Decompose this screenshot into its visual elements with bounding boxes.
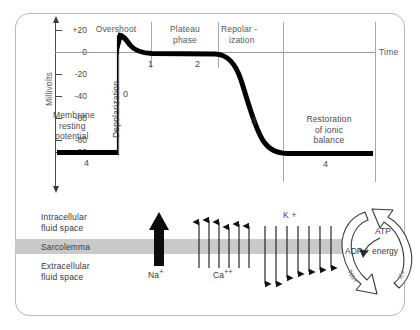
pump-adp-label: ADP + energy bbox=[345, 246, 398, 256]
phase-number-0: 0 bbox=[123, 89, 128, 99]
resting-potential-line2: resting bbox=[59, 121, 86, 132]
potassium-ion-label: K + bbox=[283, 210, 297, 220]
calcium-ion-sup: ++ bbox=[224, 268, 233, 275]
phase-number-4-left: 4 bbox=[84, 158, 89, 168]
phase-number-2: 2 bbox=[195, 59, 200, 69]
figure-root: Millivolts +20 0 -20 -40 -60 -80 -90 Tim… bbox=[0, 0, 420, 330]
calcium-ion-text: Ca bbox=[213, 270, 224, 280]
phase-number-1: 1 bbox=[148, 59, 153, 69]
resting-potential-line1: Membrane bbox=[53, 110, 95, 120]
restoration-line1: Restoration bbox=[306, 114, 351, 124]
restoration-note: Restoration of ionic balance bbox=[289, 114, 369, 146]
action-potential-chart: Millivolts +20 0 -20 -40 -60 -80 -90 Tim… bbox=[55, 22, 395, 187]
restoration-line3: balance bbox=[314, 135, 345, 145]
sodium-ion-sup: + bbox=[159, 268, 163, 275]
potassium-efflux-arrows bbox=[265, 226, 331, 284]
y-axis-down-arrow-icon bbox=[53, 186, 59, 193]
action-potential-curve bbox=[55, 22, 395, 187]
phase-number-3: 3 bbox=[251, 116, 256, 126]
sodium-influx-arrow bbox=[149, 212, 169, 266]
depolarization-label: Depolarization bbox=[111, 81, 121, 138]
pump-atp-label: ATP bbox=[375, 226, 391, 236]
membrane-ion-flux-diagram: Intracellular fluid space Sarcolemma Ext… bbox=[15, 198, 405, 316]
phase-number-4-right: 4 bbox=[323, 159, 328, 169]
sodium-ion-text: Na bbox=[148, 270, 159, 280]
calcium-influx-arrows bbox=[199, 220, 249, 268]
restoration-line2: of ionic bbox=[315, 125, 343, 135]
resting-potential-line3: potential bbox=[55, 131, 89, 142]
resting-potential-note: Membrane resting potential bbox=[53, 110, 109, 142]
sodium-ion-label: Na+ bbox=[148, 268, 164, 280]
calcium-ion-label: Ca++ bbox=[213, 268, 233, 280]
